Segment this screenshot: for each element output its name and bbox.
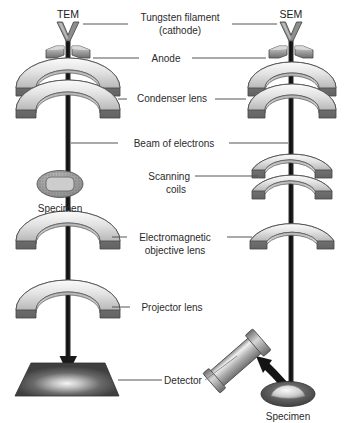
label-tungsten-filament-sub: (cathode) <box>159 25 201 36</box>
sem-specimen-stage <box>261 382 315 407</box>
column-header-sem: SEM <box>280 8 303 20</box>
label-electromagnetic-objective-lens-sub: objective lens <box>145 245 206 256</box>
column-header-tem: TEM <box>57 8 79 20</box>
label-sem-specimen: Specimen <box>266 411 310 422</box>
label-tungsten-filament: Tungsten filament <box>140 12 219 23</box>
label-anode: Anode <box>152 53 181 64</box>
label-beam-of-electrons: Beam of electrons <box>134 138 215 149</box>
tem-specimen <box>37 171 83 198</box>
label-condenser-lens: Condenser lens <box>137 93 207 104</box>
label-electromagnetic-objective-lens: Electromagnetic <box>139 232 211 243</box>
diagram-canvas: TEM SEM Tungsten filament (cathode) Anod… <box>0 0 350 423</box>
tem-sem-comparison-diagram: TEM SEM Tungsten filament (cathode) Anod… <box>0 0 350 423</box>
label-detector: Detector <box>164 375 202 386</box>
label-projector-lens: Projector lens <box>141 302 202 313</box>
label-scanning-coils: Scanning <box>148 171 190 182</box>
label-scanning-coils-sub: coils <box>166 184 186 195</box>
tem-detector-screen <box>15 363 119 396</box>
label-tem-specimen: Specimen <box>38 203 82 214</box>
